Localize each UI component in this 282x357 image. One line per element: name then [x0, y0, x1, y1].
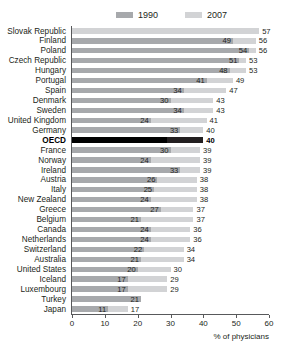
value-label-2007: 43: [216, 96, 224, 105]
value-label-2007: 49: [236, 76, 244, 85]
chart-row: Poland5456: [71, 46, 269, 56]
value-label-2007: 38: [200, 175, 208, 184]
chart-row: Ireland3339: [71, 165, 269, 175]
value-label-2007: 40: [206, 136, 214, 145]
value-label-2007: 34: [187, 245, 195, 254]
value-label-1990: 22: [134, 245, 142, 254]
x-tick-20: [138, 315, 139, 318]
category-label: Poland: [41, 46, 67, 55]
value-label-2007: 38: [200, 195, 208, 204]
value-label-2007: 47: [229, 86, 237, 95]
value-label-1990: 27: [150, 205, 158, 214]
legend-label-2007: 2007: [207, 11, 227, 20]
chart-row: Portugal4149: [71, 76, 269, 86]
value-label-2007: 43: [216, 106, 224, 115]
category-label: Norway: [38, 156, 66, 165]
x-tick-60: [269, 315, 270, 318]
value-label-2007: 36: [193, 235, 201, 244]
value-label-1990: 24: [140, 235, 148, 244]
bar-1990: [72, 227, 151, 232]
bar-1990: [72, 88, 184, 93]
chart-row: Spain3447: [71, 86, 269, 96]
x-tick-0: [72, 315, 73, 318]
value-label-1990: 29: [157, 136, 165, 145]
value-label-1990: 24: [140, 156, 148, 165]
bar-1990: [72, 237, 151, 242]
bar-2007: [72, 28, 259, 33]
category-label: Iceland: [40, 275, 66, 284]
category-label: Spain: [45, 86, 66, 95]
value-label-1990: 49: [222, 36, 230, 45]
bar-1990: [72, 108, 184, 113]
chart-row: Iceland1729: [71, 274, 269, 284]
value-label-2007: 40: [206, 126, 214, 135]
value-label-2007: 53: [249, 66, 257, 75]
chart-row: Denmark3043: [71, 96, 269, 106]
bar-1990: [72, 118, 151, 123]
bar-1990: [72, 78, 207, 83]
category-label: Greece: [39, 205, 66, 214]
category-label: Portugal: [36, 76, 67, 85]
category-label: United States: [17, 265, 66, 274]
category-label: Australia: [34, 255, 66, 264]
chart-row: New Zealand2438: [71, 195, 269, 205]
category-label: Slovak Republic: [7, 27, 66, 36]
value-label-1990: 24: [140, 116, 148, 125]
x-tick-40: [203, 315, 204, 318]
chart-row: OECD2940: [71, 135, 269, 145]
bar-1990: [72, 137, 167, 142]
chart-row: Sweden3443: [71, 105, 269, 115]
chart-row: Canada2436: [71, 225, 269, 235]
value-label-1990: 21: [130, 215, 138, 224]
value-label-2007: 17: [131, 305, 139, 314]
x-tick-label-0: 0: [70, 319, 74, 328]
category-label: Canada: [37, 225, 66, 234]
x-axis-title: % of physicians: [213, 332, 269, 341]
chart-row: United Kingdom2441: [71, 115, 269, 125]
x-tick-label-10: 10: [100, 319, 109, 328]
chart-row: Slovak Republic57: [71, 26, 269, 36]
value-label-2007: 36: [193, 225, 201, 234]
value-label-1990: 30: [160, 96, 168, 105]
bar-1990: [72, 177, 157, 182]
value-label-2007: 57: [262, 27, 270, 36]
category-label: Netherlands: [22, 235, 66, 244]
value-label-2007: 37: [196, 205, 204, 214]
chart-row: Hungary4853: [71, 66, 269, 76]
chart-row: Netherlands2436: [71, 235, 269, 245]
value-label-1990: 24: [140, 225, 148, 234]
value-label-1990: 26: [147, 175, 155, 184]
chart-row: Turkey21: [71, 294, 269, 304]
chart-row: Austria2638: [71, 175, 269, 185]
chart-row: France3039: [71, 145, 269, 155]
x-tick-30: [171, 315, 172, 318]
category-label: Italy: [51, 185, 66, 194]
value-label-2007: 56: [259, 36, 267, 45]
value-label-2007: 53: [249, 56, 257, 65]
value-label-1990: 33: [170, 126, 178, 135]
value-label-1990: 54: [239, 46, 247, 55]
chart-row: Norway2439: [71, 155, 269, 165]
x-tick-10: [105, 315, 106, 318]
value-label-2007: 39: [203, 156, 211, 165]
category-label: France: [41, 146, 66, 155]
bar-1990: [72, 127, 180, 132]
value-label-2007: 56: [259, 46, 267, 55]
legend-entry-1990: 1990: [116, 8, 158, 22]
category-label: New Zealand: [18, 195, 66, 204]
value-label-1990: 51: [229, 56, 237, 65]
value-label-2007: 29: [170, 275, 178, 284]
x-tick-label-40: 40: [199, 319, 208, 328]
value-label-1990: 30: [160, 146, 168, 155]
x-tick-label-20: 20: [133, 319, 142, 328]
x-tick-label-50: 50: [232, 319, 241, 328]
category-label: Austria: [41, 175, 66, 184]
value-label-1990: 34: [173, 106, 181, 115]
chart-row: United States2030: [71, 264, 269, 274]
value-label-1990: 21: [130, 295, 138, 304]
chart-row: Australia2134: [71, 254, 269, 264]
bar-1990: [72, 197, 151, 202]
value-label-2007: 41: [210, 116, 218, 125]
chart-legend: 19902007: [0, 8, 282, 24]
physicians-share-chart: 19902007 % of physicians 0102030405060Sl…: [0, 0, 282, 357]
